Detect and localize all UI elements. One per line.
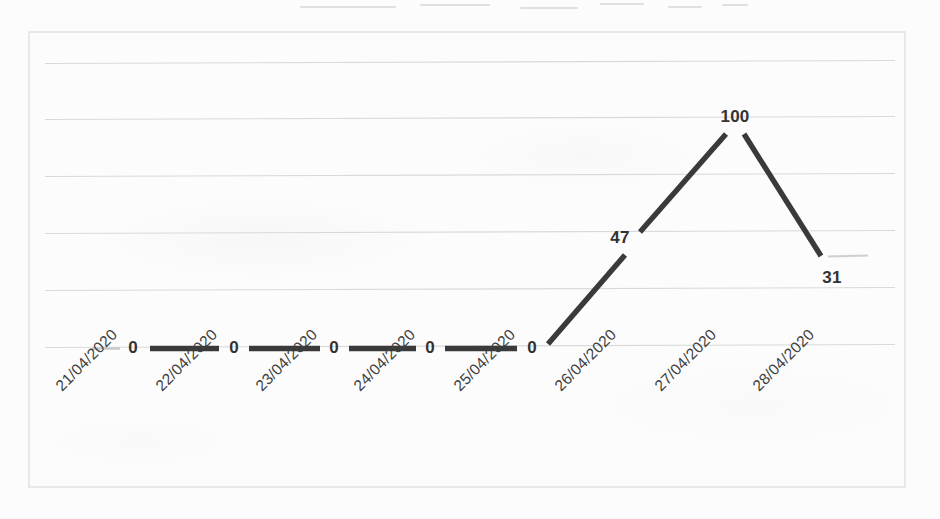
data-label-point-4: 0: [527, 338, 537, 358]
data-label-point-2: 0: [329, 338, 339, 358]
chart-canvas: [0, 0, 940, 519]
data-label-point-0: 0: [128, 338, 138, 358]
data-label-point-7: 31: [822, 268, 841, 288]
data-label-point-3: 0: [425, 338, 435, 358]
line-chart: 0 0 0 0 0 47 100 31 21/04/2020 22/04/202…: [0, 0, 940, 519]
chart-plot-border: [29, 32, 905, 487]
data-label-point-6: 100: [721, 107, 750, 127]
data-label-point-5: 47: [610, 228, 629, 248]
chart-data-line: [92, 134, 868, 349]
chart-gridlines: [45, 61, 895, 348]
data-label-point-1: 0: [229, 338, 239, 358]
scanned-page-background: 0 0 0 0 0 47 100 31 21/04/2020 22/04/202…: [0, 0, 940, 519]
